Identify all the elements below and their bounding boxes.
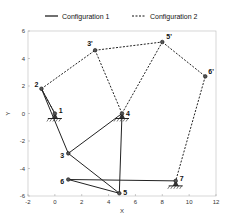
link-6'-7 — [176, 76, 206, 181]
y-axis-label: Y — [5, 111, 11, 115]
y-tick-label: -2 — [20, 138, 26, 144]
joint-label: 4 — [126, 110, 130, 117]
y-tick-label: 4 — [22, 56, 26, 62]
joint-label: 5 — [123, 189, 127, 196]
joint-label: 7 — [180, 175, 184, 182]
linkage-chart: Configuration 1Configuration 2-202468101… — [0, 0, 228, 220]
x-tick-label: 0 — [53, 199, 57, 205]
y-tick-label: -6 — [20, 193, 26, 199]
joint-6 — [66, 178, 70, 182]
legend-label-config1: Configuration 1 — [62, 13, 110, 21]
link-3-4 — [68, 114, 122, 154]
joint-label: 6 — [60, 178, 64, 185]
joint-label: 2 — [34, 81, 38, 88]
joint-6' — [203, 75, 207, 79]
link-3'-5' — [95, 42, 162, 50]
x-axis-label: X — [120, 208, 124, 214]
joint-label: 5' — [166, 33, 172, 40]
x-tick-label: 12 — [213, 199, 220, 205]
y-tick-label: -4 — [20, 166, 26, 172]
joint-label: 3 — [60, 152, 64, 159]
link-3'-4 — [95, 50, 122, 113]
x-tick-label: 10 — [186, 199, 193, 205]
link-5'-6' — [162, 42, 205, 76]
link-3-5 — [68, 153, 119, 193]
link-2-3' — [41, 50, 95, 89]
joint-5' — [160, 40, 164, 44]
joint-label: 3' — [87, 40, 93, 47]
y-tick-label: 6 — [22, 28, 26, 34]
joint-7 — [174, 179, 178, 183]
link-4-5' — [122, 42, 162, 114]
joint-label: 1 — [59, 107, 63, 114]
link-6-7 — [68, 180, 175, 181]
joint-2 — [40, 87, 44, 91]
x-tick-label: 6 — [134, 199, 138, 205]
x-tick-label: 4 — [107, 199, 111, 205]
joint-3 — [66, 152, 70, 156]
x-tick-label: 2 — [80, 199, 84, 205]
joint-5 — [118, 191, 122, 195]
link-2-3 — [41, 89, 68, 154]
joint-1 — [53, 112, 57, 116]
y-tick-label: 2 — [22, 83, 26, 89]
joint-4 — [120, 112, 124, 116]
legend-label-config2: Configuration 2 — [150, 13, 198, 21]
link-6-5 — [68, 180, 119, 194]
link-4-5 — [119, 114, 122, 194]
y-tick-label: 0 — [22, 111, 26, 117]
joint-3' — [93, 48, 97, 52]
joint-label: 6' — [208, 68, 214, 75]
x-tick-label: 8 — [161, 199, 165, 205]
x-tick-label: -2 — [25, 199, 31, 205]
